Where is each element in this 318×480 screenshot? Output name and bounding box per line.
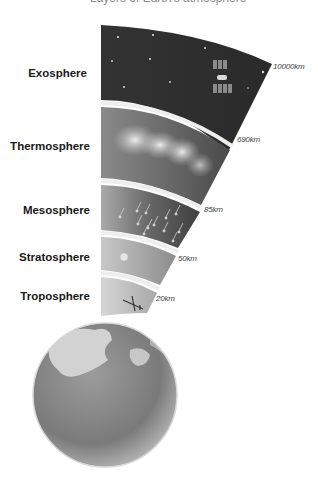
label-mesosphere: Mesosphere	[0, 204, 90, 216]
altitude-exosphere: 10000km	[273, 62, 305, 71]
label-thermosphere: Thermosphere	[0, 140, 90, 152]
altitude-troposphere: 20km	[156, 294, 175, 303]
altitude-mesosphere: 85km	[204, 205, 223, 214]
diagram-title: Layers of Earth's atmosphere	[90, 0, 246, 5]
altitude-stratosphere: 50km	[178, 254, 197, 263]
balloon-icon	[120, 253, 128, 261]
label-exosphere: Exosphere	[0, 67, 87, 79]
label-stratosphere: Stratosphere	[0, 251, 90, 263]
altitude-thermosphere: 690km	[237, 135, 260, 144]
atmosphere-diagram: Layers of Earth's atmosphere Exosphere T…	[0, 0, 318, 480]
label-troposphere: Troposphere	[0, 290, 90, 302]
earth-globe	[33, 323, 177, 480]
